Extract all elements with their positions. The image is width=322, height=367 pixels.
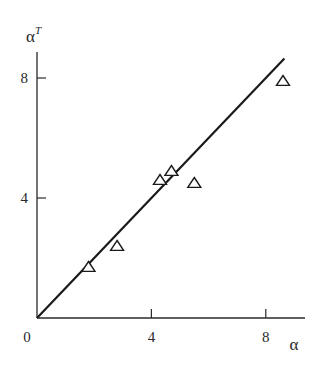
triangle-marker-icon <box>111 241 124 251</box>
y-axis-label-base: α <box>26 27 35 46</box>
y-tick-label: 8 <box>21 70 29 86</box>
triangle-marker-icon <box>165 166 178 176</box>
tick-labels: 4848 <box>21 70 270 345</box>
x-tick-label: 8 <box>262 329 270 345</box>
y-tick-label: 4 <box>21 190 29 206</box>
fit-line-group <box>37 59 284 319</box>
x-tick-label: 4 <box>148 329 156 345</box>
y-axis-label: αT <box>26 24 42 46</box>
scatter-chart: 4848 0 α αT <box>0 0 322 367</box>
axes <box>37 52 305 318</box>
triangle-marker-icon <box>188 178 201 188</box>
triangle-marker-icon <box>276 76 289 86</box>
x-axis-label: α <box>290 335 299 354</box>
data-markers <box>82 76 289 272</box>
y-axis-label-superscript: T <box>35 24 42 36</box>
origin-label: 0 <box>23 329 31 345</box>
fit-line <box>37 59 284 319</box>
triangle-marker-icon <box>82 262 95 272</box>
